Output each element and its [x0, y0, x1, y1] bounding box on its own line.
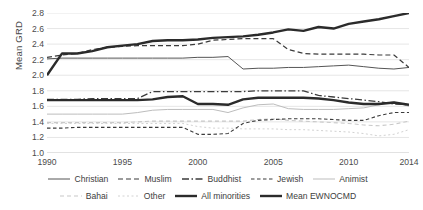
chart-legend: ChristianMuslimBuddhistJewishAnimistBaha…	[0, 170, 416, 204]
x-tick-label: 2005	[253, 157, 293, 167]
legend-item-jewish[interactable]: Jewish	[251, 174, 303, 184]
legend-label: Mean EWNOCMD	[286, 191, 356, 201]
x-tick-label: 2000	[178, 157, 218, 167]
legend-label: Christian	[74, 174, 108, 184]
series-line-all-minorities	[47, 96, 409, 105]
legend-key-swatch	[313, 175, 335, 183]
legend-key-swatch	[251, 175, 273, 183]
legend-label: Jewish	[277, 174, 303, 184]
legend-key-swatch	[175, 192, 197, 200]
y-tick-label: 2.6	[22, 24, 44, 34]
legend-key-swatch	[118, 175, 140, 183]
y-tick-label: 2.2	[22, 55, 44, 65]
legend-label: All minorities	[201, 191, 250, 201]
legend-row: ChristianMuslimBuddhistJewishAnimist	[0, 170, 416, 187]
plot-area	[47, 13, 409, 153]
series-line-muslim	[47, 39, 409, 68]
legend-item-bahai[interactable]: Bahai	[60, 191, 108, 201]
legend-label: Muslim	[144, 174, 171, 184]
x-tick-label: 1990	[27, 157, 67, 167]
legend-key-swatch	[48, 175, 70, 183]
y-tick-label: 1.0	[22, 148, 44, 158]
legend-key-swatch	[182, 175, 204, 183]
legend-item-all-minorities[interactable]: All minorities	[175, 191, 250, 201]
legend-key-swatch	[118, 192, 140, 200]
x-tick-label: 2014	[389, 157, 423, 167]
y-tick-label: 1.2	[22, 132, 44, 142]
legend-item-mean-ewnocmd[interactable]: Mean EWNOCMD	[260, 191, 356, 201]
legend-item-muslim[interactable]: Muslim	[118, 174, 171, 184]
legend-label: Buddhist	[208, 174, 241, 184]
x-tick-label: 2010	[329, 157, 369, 167]
y-tick-label: 1.4	[22, 117, 44, 127]
legend-label: Animist	[339, 174, 367, 184]
y-tick-label: 1.8	[22, 86, 44, 96]
y-tick-label: 1.6	[22, 101, 44, 111]
y-tick-label: 2.8	[22, 8, 44, 18]
legend-label: Other	[144, 191, 166, 201]
legend-key-swatch	[60, 192, 82, 200]
legend-key-swatch	[260, 192, 282, 200]
plot-svg	[47, 13, 409, 153]
y-axis-title: Mean GRD	[13, 6, 24, 86]
series-line-christian	[47, 57, 409, 69]
legend-item-animist[interactable]: Animist	[313, 174, 367, 184]
legend-item-christian[interactable]: Christian	[48, 174, 108, 184]
y-tick-label: 2.4	[22, 39, 44, 49]
y-tick-label: 2.0	[22, 70, 44, 80]
legend-label: Bahai	[86, 191, 108, 201]
legend-item-buddhist[interactable]: Buddhist	[182, 174, 241, 184]
x-tick-label: 1995	[102, 157, 142, 167]
legend-row: BahaiOtherAll minoritiesMean EWNOCMD	[0, 187, 416, 204]
legend-item-other[interactable]: Other	[118, 191, 166, 201]
